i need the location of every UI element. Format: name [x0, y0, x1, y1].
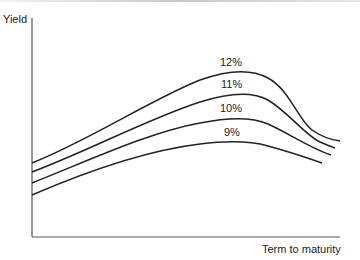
curve-label-9: 9% — [224, 126, 240, 139]
yield-curve-chart — [0, 0, 360, 260]
y-axis-label: Yield — [3, 12, 27, 26]
curve-label-10: 10% — [220, 102, 242, 115]
curve-12-percent — [32, 72, 340, 163]
curve-11-percent — [32, 94, 335, 172]
x-axis-label: Term to maturity — [262, 242, 341, 256]
curve-label-12: 12% — [220, 56, 242, 69]
curve-label-11: 11% — [221, 78, 242, 91]
curve-9-percent — [32, 142, 322, 195]
